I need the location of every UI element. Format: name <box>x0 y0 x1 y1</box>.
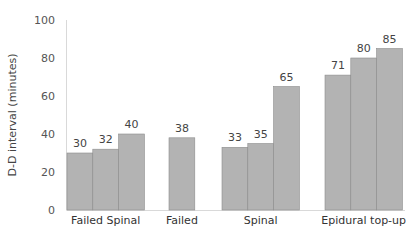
bar <box>274 87 300 211</box>
bar-value-label: 65 <box>280 71 294 84</box>
y-tick-label: 100 <box>34 14 55 27</box>
bar-groups: 30324038333565718085 <box>67 33 402 211</box>
bar <box>351 58 377 210</box>
y-tick-label: 60 <box>41 90 55 103</box>
x-category-label: Epidural top-up <box>321 214 406 227</box>
bar-value-label: 33 <box>228 131 242 144</box>
bar-value-label: 40 <box>125 118 139 131</box>
bar <box>119 134 145 210</box>
bar-value-label: 71 <box>331 59 345 72</box>
bar-group: 718085 <box>325 33 402 211</box>
y-tick-label: 0 <box>48 204 55 217</box>
bar-value-label: 80 <box>357 42 371 55</box>
bar <box>169 138 195 210</box>
bar-value-label: 38 <box>175 122 189 135</box>
x-category-label: Failed <box>166 214 198 227</box>
bar-chart: 020406080100 D-D interval (minutes) 3032… <box>0 0 411 227</box>
y-tick-label: 20 <box>41 166 55 179</box>
bar-group: 303240 <box>67 118 144 210</box>
bar-value-label: 32 <box>99 133 113 146</box>
bar <box>325 75 351 210</box>
bar-group: 38 <box>169 122 195 210</box>
bar <box>67 153 93 210</box>
bar-value-label: 85 <box>383 33 397 46</box>
bar <box>93 149 119 210</box>
y-tick-label: 40 <box>41 128 55 141</box>
x-category-label: Spinal <box>244 214 278 227</box>
x-category-label: Failed Spinal <box>71 214 140 227</box>
bar-value-label: 30 <box>73 137 87 150</box>
y-axis-label: D-D interval (minutes) <box>6 54 19 177</box>
bar-group: 333565 <box>222 71 299 211</box>
x-axis-category-labels: Failed SpinalFailedSpinalEpidural top-up <box>71 214 406 227</box>
bar-value-label: 35 <box>254 128 268 141</box>
y-tick-label: 80 <box>41 52 55 65</box>
bar <box>377 49 403 211</box>
bar <box>248 144 274 211</box>
bar <box>222 147 248 210</box>
